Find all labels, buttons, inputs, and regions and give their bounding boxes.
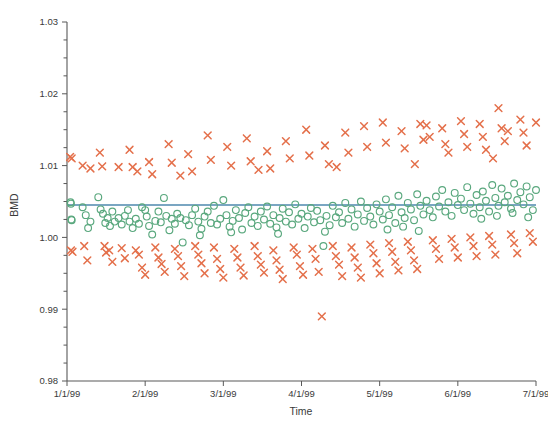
plot-canvas: 0.980.991.001.011.021.03 1/1/992/1/993/1… xyxy=(0,0,548,428)
x-axis-tick-label: 4/1/99 xyxy=(288,388,314,399)
x-axis-tick-label: 7/1/99 xyxy=(523,388,548,399)
y-axis-tick-label: 1.03 xyxy=(40,16,59,27)
y-axis-title: BMD xyxy=(8,193,20,217)
x-axis-tick-label: 2/1/99 xyxy=(132,388,158,399)
x-axis-tick-label: 5/1/99 xyxy=(366,388,392,399)
y-axis-tick-label: 1.00 xyxy=(40,232,59,243)
y-axis-tick-label: 0.98 xyxy=(40,375,59,386)
y-axis-tick-label: 1.01 xyxy=(40,160,59,171)
scatter-plot-figure: 0.980.991.001.011.021.03 1/1/992/1/993/1… xyxy=(0,0,548,428)
x-axis-tick-label: 3/1/99 xyxy=(210,388,236,399)
y-axis-tick-label: 0.99 xyxy=(40,304,59,315)
x-axis-tick-label: 6/1/99 xyxy=(445,388,471,399)
x-axis-title: Time xyxy=(290,405,313,417)
x-axis-tick-label: 1/1/99 xyxy=(54,388,80,399)
y-axis-tick-label: 1.02 xyxy=(40,88,59,99)
